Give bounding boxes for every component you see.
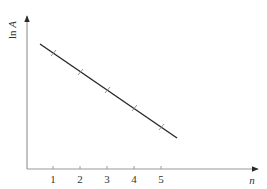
x-tick-label-2: 2 (77, 173, 83, 185)
x-tick-label-4: 4 (131, 173, 137, 185)
x-tick-label-5: 5 (158, 173, 164, 185)
y-axis-label-var: A (6, 21, 18, 29)
x-axis-label: n (249, 174, 255, 186)
chart: 1 2 3 4 5 n ln A (0, 0, 267, 189)
x-tick-label-3: 3 (104, 173, 110, 185)
x-tick-label-1: 1 (50, 173, 56, 185)
fit-line (40, 44, 177, 138)
y-axis-label-fn: ln (6, 28, 18, 39)
y-axis-label: ln A (6, 21, 18, 39)
